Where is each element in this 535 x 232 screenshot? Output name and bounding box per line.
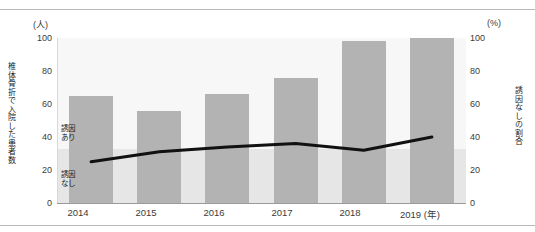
right-ytick-100: 100 bbox=[470, 33, 494, 43]
figure-bottom-border bbox=[0, 225, 535, 226]
left-ytick-40: 40 bbox=[28, 132, 52, 142]
left-ytick-100: 100 bbox=[28, 33, 52, 43]
annotation-yuin-nashi-line2: なし bbox=[61, 179, 101, 188]
right-ytick-80: 80 bbox=[470, 66, 494, 76]
left-ytick-80: 80 bbox=[28, 66, 52, 76]
left-ytick-20: 20 bbox=[28, 165, 52, 175]
left-axis-line bbox=[57, 38, 58, 203]
left-axis-title: 椎体骨折で入院した患者数 bbox=[6, 62, 16, 164]
percentage-line-series bbox=[57, 38, 466, 203]
right-ytick-60: 60 bbox=[470, 99, 494, 109]
right-axis-title: 誘因なしの割合 bbox=[513, 86, 523, 146]
annotation-yuin-ari: 誘因 あり bbox=[61, 124, 101, 142]
left-ytick-60: 60 bbox=[28, 99, 52, 109]
x-axis-baseline bbox=[57, 203, 466, 204]
right-ytick-40: 40 bbox=[470, 132, 494, 142]
right-axis-unit: (%) bbox=[487, 18, 501, 28]
annotation-yuin-nashi-line1: 誘因 bbox=[61, 170, 101, 179]
chart-figure: (人) (%) 椎体骨折で入院した患者数 誘因なしの割合 100 80 60 4… bbox=[0, 0, 535, 232]
right-ytick-20: 20 bbox=[470, 165, 494, 175]
xtick-2019: 2019 (年) bbox=[380, 207, 460, 221]
left-axis-unit: (人) bbox=[33, 18, 48, 31]
annotation-yuin-nashi: 誘因 なし bbox=[61, 170, 101, 188]
xtick-2018: 2018 bbox=[310, 207, 390, 218]
right-ytick-0: 0 bbox=[470, 198, 494, 208]
annotation-yuin-ari-line1: 誘因 bbox=[61, 124, 101, 133]
figure-top-border bbox=[0, 9, 535, 10]
annotation-yuin-ari-line2: あり bbox=[61, 133, 101, 142]
plot-area bbox=[57, 38, 466, 203]
